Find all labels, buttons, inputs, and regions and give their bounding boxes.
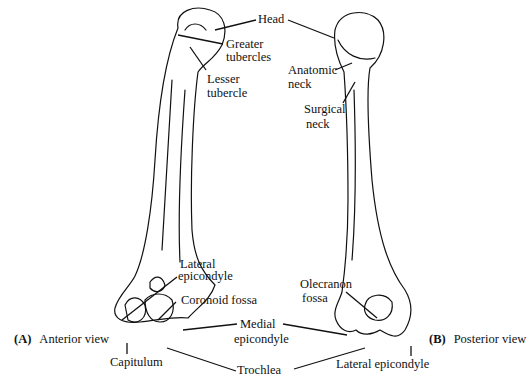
- leader-medial-epicondyle-b: [283, 324, 347, 335]
- leader-head-b: [288, 20, 334, 38]
- label-surgical-neck-2: neck: [306, 118, 330, 131]
- humerus-diagram: Head Greater tubercles Lesser tubercle A…: [0, 0, 532, 391]
- view-caption-anterior: (A)Anterior view: [14, 333, 109, 346]
- anterior-shaft-line: [162, 80, 172, 250]
- label-olecranon-fossa-2: fossa: [302, 292, 328, 305]
- label-capitulum: Capitulum: [110, 356, 163, 369]
- label-head: Head: [258, 13, 284, 26]
- label-lesser-tubercle-1: Lesser: [207, 73, 240, 86]
- label-lateral-epicondyle-b: Lateral epicondyle: [336, 358, 429, 371]
- label-lateral-epicondyle-a-2: epicondyle: [178, 270, 233, 283]
- olecranon-fossa-shape: [364, 295, 392, 320]
- view-name-b: Posterior view: [454, 332, 527, 346]
- leader-greater-tubercles: [178, 35, 223, 44]
- head-posterior-shade: [338, 40, 375, 59]
- view-letter-a: (A): [14, 332, 31, 346]
- label-trochlea: Trochlea: [237, 364, 281, 377]
- leader-head-a: [215, 20, 256, 30]
- anterior-shaft-line: [179, 90, 185, 262]
- label-medial-epicondyle-1: Medial: [240, 318, 275, 331]
- label-surgical-neck-1: Surgical: [304, 103, 345, 116]
- view-letter-b: (B): [429, 332, 446, 346]
- label-anatomic-neck-1: Anatomic: [288, 64, 337, 77]
- label-coronoid-fossa: Coronoid fossa: [181, 294, 257, 307]
- label-medial-epicondyle-2: epicondyle: [234, 333, 289, 346]
- label-olecranon-fossa-1: Olecranon: [300, 278, 352, 291]
- label-lesser-tubercle-2: tubercle: [207, 87, 247, 100]
- label-anatomic-neck-2: neck: [288, 78, 312, 91]
- leader-anatomic-neck: [335, 63, 352, 70]
- leader-medial-epicondyle-a: [183, 324, 237, 330]
- leader-trochlea-a: [167, 348, 236, 371]
- view-name-a: Anterior view: [39, 332, 109, 346]
- coronoid-fossa-shape: [150, 277, 165, 291]
- view-caption-posterior: (B)Posterior view: [429, 333, 526, 346]
- label-greater-tubercles-2: tubercles: [226, 51, 271, 64]
- head-anterior-shade: [185, 24, 206, 30]
- leader-lesser-tubercle: [190, 47, 206, 70]
- posterior-shaft-line: [352, 90, 355, 260]
